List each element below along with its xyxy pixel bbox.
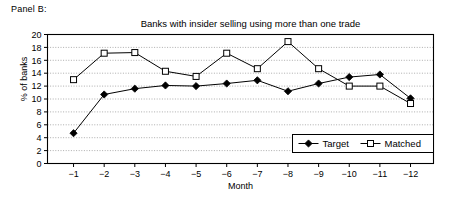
data-point	[192, 83, 199, 90]
line-chart-svg: 02468101214161820−1−2−3−4−5−6−7−8−9−10−1…	[0, 0, 453, 200]
x-axis-tick-label: −6	[222, 169, 232, 179]
data-point	[346, 83, 352, 89]
x-axis-tick-label: −4	[160, 169, 170, 179]
y-axis-tick-label: 10	[31, 94, 41, 104]
x-axis-tick-label: −10	[342, 169, 357, 179]
x-axis-tick-label: −11	[373, 169, 388, 179]
x-axis-tick-label: −7	[252, 169, 262, 179]
y-axis-tick-label: 20	[31, 30, 41, 40]
y-axis-tick-label: 4	[36, 133, 41, 143]
y-axis-tick-label: 18	[31, 43, 41, 53]
series-line	[74, 74, 411, 133]
data-point	[377, 83, 383, 89]
chart-legend: TargetMatched	[293, 135, 434, 153]
x-axis-tick-label: −2	[99, 169, 109, 179]
data-point	[254, 77, 261, 84]
series-matched	[71, 39, 414, 107]
data-point	[224, 50, 230, 56]
data-point	[223, 80, 230, 87]
data-point	[71, 77, 77, 83]
data-point	[254, 66, 260, 72]
data-point	[193, 73, 199, 79]
x-axis-tick-label: −9	[313, 169, 323, 179]
x-axis-tick-label: −1	[68, 169, 78, 179]
legend-label: Matched	[385, 138, 421, 149]
y-axis-tick-label: 8	[36, 107, 41, 117]
data-point	[162, 68, 168, 74]
data-point	[408, 101, 414, 107]
chart-plot-area: % of banks Month 02468101214161820−1−2−3…	[0, 0, 453, 200]
data-point	[346, 73, 353, 80]
x-axis-tick-label: −12	[403, 169, 418, 179]
data-point	[131, 85, 138, 92]
x-axis-tick-label: −5	[191, 169, 201, 179]
x-axis-tick-label: −8	[283, 169, 293, 179]
series-line	[74, 42, 411, 104]
y-axis-tick-label: 12	[31, 81, 41, 91]
y-axis-tick-label: 6	[36, 120, 41, 130]
legend-marker	[368, 141, 374, 147]
x-axis-tick-label: −3	[130, 169, 140, 179]
data-point	[101, 50, 107, 56]
data-point	[132, 50, 138, 56]
series-target	[70, 71, 414, 137]
y-axis-tick-label: 16	[31, 56, 41, 66]
y-axis-tick-label: 0	[36, 159, 41, 169]
data-point	[285, 39, 291, 45]
data-point	[162, 82, 169, 89]
legend-label: Target	[323, 138, 350, 149]
data-point	[284, 88, 291, 95]
y-axis-tick-label: 14	[31, 68, 41, 78]
data-point	[316, 66, 322, 72]
y-axis-tick-label: 2	[36, 146, 41, 156]
